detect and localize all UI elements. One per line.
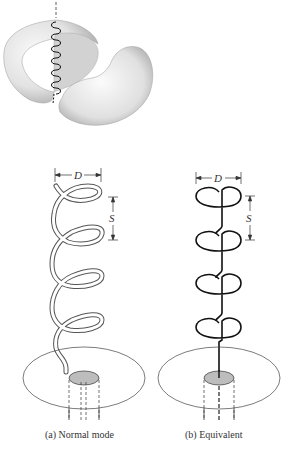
caption-b: (b) Equivalent — [185, 429, 242, 440]
radiation-pattern — [4, 2, 153, 125]
diameter-label-a: D — [73, 169, 82, 181]
spacing-label-a: S — [109, 212, 115, 224]
spacing-label-b: S — [246, 212, 252, 224]
panel-a-normal-mode: D S — [23, 168, 145, 420]
helical-antenna-figure: D S — [0, 0, 287, 449]
caption-a: (a) Normal mode — [45, 429, 114, 440]
coax-feed-a — [69, 371, 99, 420]
coax-feed-b — [204, 370, 234, 420]
diameter-label-b: D — [213, 172, 222, 184]
helix-tube — [52, 186, 102, 372]
loop-dipole-chain — [196, 187, 241, 372]
panel-b-equivalent: D S — [158, 172, 280, 420]
